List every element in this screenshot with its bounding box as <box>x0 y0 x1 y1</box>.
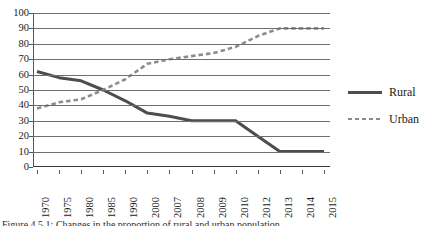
solid-line-swatch <box>348 87 382 97</box>
gridline <box>33 136 330 137</box>
gridline <box>33 75 330 76</box>
x-tick-mark <box>280 170 281 174</box>
x-tick-mark <box>324 170 325 174</box>
gridline <box>33 13 330 14</box>
legend-item-urban: Urban <box>348 105 444 132</box>
x-tick-mark <box>147 170 148 174</box>
y-tick-label: 50 <box>0 85 29 96</box>
figure-caption: Figure 4.5.1: Changes in the proportion … <box>2 219 332 226</box>
x-tick-mark <box>59 170 60 174</box>
figure-container: 1009080706050403020100 19701975198019851… <box>0 0 446 226</box>
x-tick-mark <box>81 170 82 174</box>
x-tick-label: 2013 <box>284 197 295 218</box>
y-tick-label: 20 <box>0 131 29 142</box>
x-tick-label: 2008 <box>196 197 207 218</box>
y-tick-mark <box>29 167 33 168</box>
x-tick-mark <box>169 170 170 174</box>
y-tick-label: 40 <box>0 100 29 111</box>
legend: Rural Urban <box>348 78 444 132</box>
series-line-rural <box>37 72 324 152</box>
y-tick-label: 0 <box>0 162 29 173</box>
x-axis: 1970197519801985199020002007200820092010… <box>33 170 330 226</box>
x-tick-label: 2000 <box>151 197 162 218</box>
series-line-urban <box>37 28 324 108</box>
x-tick-mark <box>258 170 259 174</box>
y-tick-label: 30 <box>0 116 29 127</box>
gridline <box>33 121 330 122</box>
gridline <box>33 105 330 106</box>
x-tick-mark <box>125 170 126 174</box>
plot-area <box>33 13 330 167</box>
x-tick-mark <box>103 170 104 174</box>
x-tick-mark <box>214 170 215 174</box>
x-tick-label: 1975 <box>63 197 74 218</box>
legend-item-rural: Rural <box>348 78 444 105</box>
dashed-line-swatch <box>348 114 382 124</box>
x-tick-label: 1980 <box>85 197 96 218</box>
x-tick-mark <box>192 170 193 174</box>
x-tick-label: 2009 <box>218 197 229 218</box>
legend-item-label: Urban <box>389 113 419 125</box>
gridline <box>33 59 330 60</box>
x-tick-label: 2010 <box>240 197 251 218</box>
y-tick-label: 10 <box>0 147 29 158</box>
gridline <box>33 28 330 29</box>
x-tick-label: 2015 <box>328 197 339 218</box>
x-tick-label: 1970 <box>41 197 52 218</box>
legend-item-label: Rural <box>389 86 416 98</box>
x-axis-line <box>33 166 330 167</box>
y-tick-label: 70 <box>0 54 29 65</box>
y-tick-label: 90 <box>0 23 29 34</box>
x-tick-mark <box>302 170 303 174</box>
y-tick-label: 80 <box>0 39 29 50</box>
y-tick-label: 60 <box>0 70 29 81</box>
x-tick-label: 1985 <box>107 197 118 218</box>
x-tick-label: 2007 <box>173 197 184 218</box>
y-tick-label: 100 <box>0 8 29 19</box>
gridline <box>33 44 330 45</box>
x-tick-label: 2014 <box>306 197 317 218</box>
gridline <box>33 90 330 91</box>
x-tick-mark <box>236 170 237 174</box>
x-tick-mark <box>37 170 38 174</box>
gridline <box>33 152 330 153</box>
x-tick-label: 1990 <box>129 197 140 218</box>
y-axis: 1009080706050403020100 <box>0 0 29 226</box>
x-tick-label: 2012 <box>262 197 273 218</box>
